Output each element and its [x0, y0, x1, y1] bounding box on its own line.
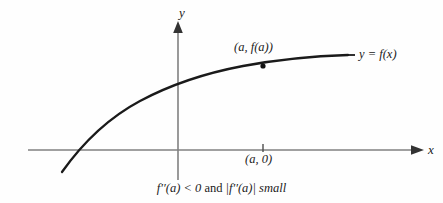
caption-first-part: f′′(a) < 0: [157, 181, 201, 195]
y-axis-label: y: [179, 6, 185, 19]
function-curve: [62, 55, 348, 172]
y-axis-arrowhead: [173, 21, 183, 33]
plot-canvas: [0, 0, 443, 203]
point-marker-a: [260, 63, 265, 68]
x-axis-arrowhead: [411, 145, 424, 155]
caption-conjunction: and: [204, 181, 222, 195]
math-figure: y x (a, f(a)) y = f(x) (a, 0) f′′(a) < 0…: [0, 0, 443, 203]
point-label-a-fa: (a, f(a)): [234, 41, 273, 54]
x-axis-tick-label-a-0: (a, 0): [245, 153, 272, 166]
x-axis-label: x: [428, 143, 434, 156]
curve-label-y-equals-fx: y = f(x): [359, 48, 397, 61]
caption-second-part: |f′′(a)| small: [226, 181, 287, 195]
figure-caption: f′′(a) < 0 and |f′′(a)| small: [0, 182, 443, 195]
